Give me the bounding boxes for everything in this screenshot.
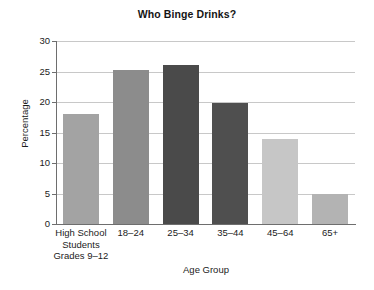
- bar: [113, 70, 149, 224]
- y-axis-tick-label: 5: [10, 189, 50, 199]
- y-axis-tick-label: 25: [10, 67, 50, 77]
- bar-chart: Who Binge Drinks? Percentage 05101520253…: [0, 0, 374, 290]
- y-axis-tick-label: 20: [10, 97, 50, 107]
- x-axis-line: [56, 224, 356, 225]
- chart-title: Who Binge Drinks?: [0, 8, 374, 20]
- x-axis-tick-label-line: 65+: [300, 227, 360, 239]
- x-axis-title: Age Group: [56, 264, 356, 275]
- x-axis-tick-label: 65+: [300, 227, 360, 239]
- bars-layer: [56, 41, 355, 224]
- y-axis-tick-labels: 051015202530: [6, 41, 50, 225]
- x-axis-tick-label-line: Students: [39, 239, 123, 251]
- bar: [312, 194, 348, 225]
- y-axis-tick-label: 15: [10, 128, 50, 138]
- bar: [262, 139, 298, 224]
- bar: [212, 103, 248, 224]
- y-axis-tick-label: 10: [10, 158, 50, 168]
- x-axis-tick-label-line: Grades 9–12: [39, 250, 123, 262]
- bar: [163, 65, 199, 224]
- bar: [63, 114, 99, 224]
- y-axis-tick-label: 30: [10, 36, 50, 46]
